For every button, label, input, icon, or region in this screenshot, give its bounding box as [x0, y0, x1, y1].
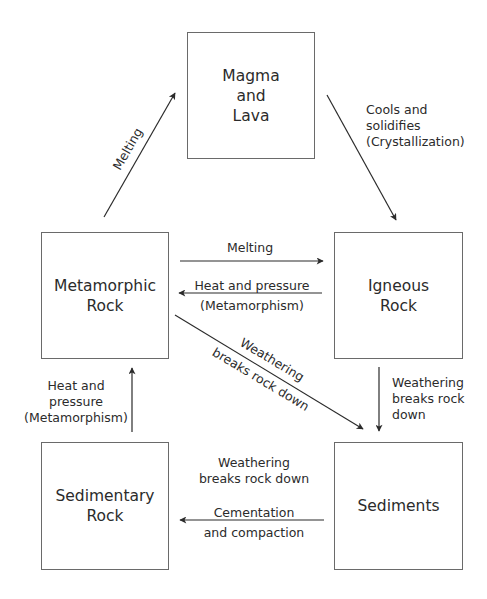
node-label: Rock — [380, 296, 417, 316]
edge-label-text: breaks rock — [392, 391, 465, 407]
label-weathering-vertical: Weathering breaks rock down — [392, 375, 465, 423]
node-label: Rock — [86, 506, 123, 526]
node-label: Magma — [222, 66, 279, 86]
edge-label-text: Heat and — [24, 378, 128, 394]
node-label: Sedimentary — [55, 486, 154, 506]
edge-label-text: Cools and — [366, 102, 465, 118]
edge-label-text: pressure — [24, 394, 128, 410]
edge-label-text: Cementation — [204, 503, 305, 523]
node-label: Lava — [233, 106, 270, 126]
edge-label-text: Melting — [227, 240, 273, 255]
edge-label-text: down — [392, 407, 465, 423]
node-label: Igneous — [368, 276, 429, 296]
node-label: Metamorphic — [54, 276, 156, 296]
label-cools-and-solidifies: Cools and solidifies (Crystallization) — [366, 102, 465, 150]
label-heat-and-pressure-vertical: Heat and pressure (Metamorphism) — [24, 378, 128, 426]
edge-label-text: (Crystallization) — [366, 134, 465, 150]
node-igneous-rock: Igneous Rock — [334, 232, 463, 359]
edge-label-text: Weathering — [392, 375, 465, 391]
edge-label-text: breaks rock down — [199, 471, 309, 487]
node-metamorphic-rock: Metamorphic Rock — [41, 232, 169, 359]
node-sedimentary-rock: Sedimentary Rock — [41, 442, 169, 570]
label-cementation-and-compaction: Cementation and compaction — [204, 503, 305, 543]
label-weathering-bottom: Weathering breaks rock down — [199, 455, 309, 487]
edge-label-text: and compaction — [204, 523, 305, 543]
edge-label-text: (Metamorphism) — [24, 410, 128, 426]
node-sediments: Sediments — [334, 442, 463, 570]
node-label: Sediments — [357, 496, 439, 516]
edge-label-text: solidifies — [366, 118, 465, 134]
label-heat-and-pressure-horizontal: Heat and pressure (Metamorphism) — [194, 276, 309, 316]
rock-cycle-diagram: Magma and Lava Metamorphic Rock Igneous … — [0, 0, 487, 599]
edge-label-text: Weathering — [199, 455, 309, 471]
node-label: and — [236, 86, 265, 106]
edge-label-text: (Metamorphism) — [194, 296, 309, 316]
edge-label-text: Heat and pressure — [194, 276, 309, 296]
node-label: Rock — [86, 296, 123, 316]
node-magma-and-lava: Magma and Lava — [187, 32, 315, 159]
label-melting-horizontal: Melting — [227, 240, 273, 256]
